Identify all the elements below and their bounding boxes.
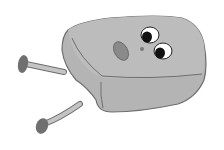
illustration — [0, 0, 224, 150]
eye-lower — [154, 43, 172, 59]
upper-leg — [17, 54, 64, 73]
nose — [140, 47, 144, 51]
upper-foot — [17, 54, 30, 73]
eye-upper — [141, 27, 159, 43]
box-body — [62, 16, 206, 112]
lower-leg — [34, 104, 80, 136]
